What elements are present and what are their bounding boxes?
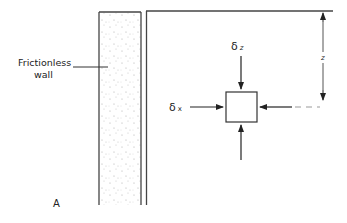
wall-label-line1: Frictionless (18, 57, 71, 68)
frictionless-wall (99, 12, 141, 205)
panel-label: A (53, 198, 60, 209)
delta-z-label: δz (231, 40, 244, 53)
soil-element-square (226, 92, 257, 122)
wall-label-line2: wall (34, 69, 53, 80)
diagram-canvas: Frictionless wall δz δx z A (0, 0, 347, 223)
depth-z-label: z (320, 54, 325, 62)
delta-x-label: δx (169, 101, 182, 114)
